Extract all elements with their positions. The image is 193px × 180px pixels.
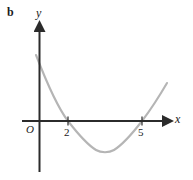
origin-label: O bbox=[26, 124, 34, 135]
parabola-curve bbox=[36, 55, 167, 152]
figure-panel: b y x O 2 5 bbox=[0, 0, 193, 180]
part-label: b bbox=[7, 6, 14, 18]
y-axis-label: y bbox=[36, 7, 41, 19]
x-tick-label-5: 5 bbox=[138, 127, 144, 138]
x-axis-label: x bbox=[175, 113, 180, 125]
parabola-plot bbox=[0, 0, 193, 180]
x-tick-label-2: 2 bbox=[64, 127, 70, 138]
